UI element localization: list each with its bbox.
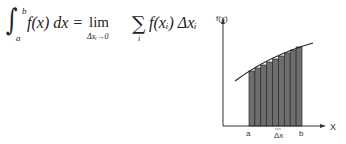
bars (249, 47, 302, 126)
riemann-bar (284, 53, 290, 126)
riemann-bar (296, 47, 302, 126)
y-axis-label: f(x) (216, 14, 228, 23)
riemann-bar (261, 65, 267, 126)
riemann-sum-graph: f(x) X a b Δx (0, 0, 346, 144)
riemann-bar (249, 71, 255, 126)
riemann-bar (273, 59, 279, 126)
riemann-bar (267, 62, 273, 126)
x-axis-label: X (330, 122, 336, 132)
a-label: a (246, 129, 251, 138)
riemann-bar (255, 68, 261, 126)
x-axis-arrow-icon (320, 124, 326, 128)
riemann-bar (290, 50, 296, 126)
riemann-bar (278, 56, 284, 126)
b-label: b (299, 129, 304, 138)
dx-label: Δx (274, 131, 283, 140)
